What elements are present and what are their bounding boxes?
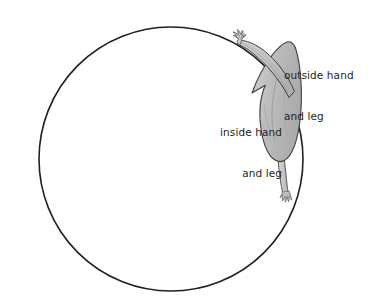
label-inside-line1: inside hand (186, 126, 282, 140)
label-outside-line2: and leg (284, 110, 354, 124)
label-outside-line1: outside hand (284, 69, 354, 83)
diagram-canvas: outside hand and leg inside hand and leg (0, 0, 380, 308)
label-inside-hand-and-leg: inside hand and leg (186, 99, 282, 207)
label-inside-line2: and leg (186, 167, 282, 181)
label-outside-hand-and-leg: outside hand and leg (284, 42, 354, 150)
